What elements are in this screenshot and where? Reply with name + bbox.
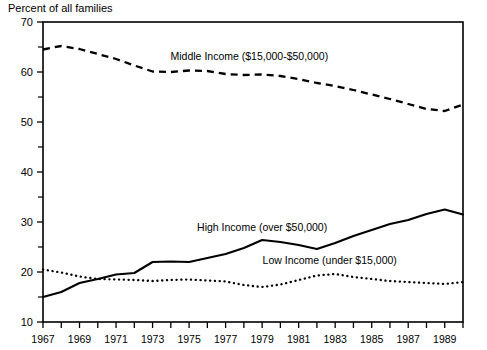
x-axis-tick-label: 1981 [287, 333, 311, 345]
y-axis-major-ticks [37, 22, 43, 322]
y-axis-tick-label: 70 [21, 16, 33, 28]
x-axis-tick-label: 1983 [323, 333, 347, 345]
y-axis-tick-label: 50 [21, 116, 33, 128]
y-axis-tick-label: 60 [21, 66, 33, 78]
x-axis-tick-label: 1987 [397, 333, 421, 345]
y-axis-tick-label: 10 [21, 316, 33, 328]
y-axis-tick-label: 40 [21, 166, 33, 178]
chart-container: Percent of all families Middle Income ($… [0, 0, 487, 350]
series-label-0: Middle Income ($15,000-$50,000) [171, 50, 329, 62]
line-chart-plot: Middle Income ($15,000-$50,000)High Inco… [0, 0, 487, 350]
x-axis-tick-label: 1975 [177, 333, 201, 345]
x-axis-tick-label: 1979 [250, 333, 274, 345]
y-axis-tick-labels: 10203040506070 [21, 16, 33, 328]
x-axis-tick-label: 1973 [141, 333, 165, 345]
series-label-1: High Income (over $50,000) [197, 221, 327, 233]
series-label-2: Low Income (under $15,000) [263, 254, 397, 266]
x-axis-tick-label: 1967 [31, 333, 55, 345]
x-axis-tick-label: 1989 [433, 333, 457, 345]
data-series-group [43, 46, 463, 297]
x-axis-tick-labels: 1967196919711973197519771979198119831985… [31, 333, 456, 345]
y-axis-tick-label: 20 [21, 266, 33, 278]
x-axis-ticks [43, 322, 463, 328]
series-line-2 [43, 270, 463, 288]
y-axis-tick-label: 30 [21, 216, 33, 228]
x-axis-tick-label: 1971 [104, 333, 128, 345]
x-axis-tick-label: 1985 [360, 333, 384, 345]
x-axis-tick-label: 1977 [214, 333, 238, 345]
x-axis-tick-label: 1969 [68, 333, 92, 345]
